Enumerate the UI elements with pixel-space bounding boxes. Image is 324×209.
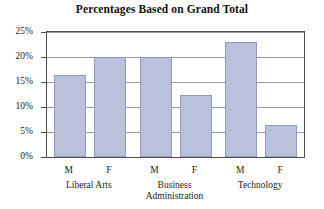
bar-liberal-arts-m bbox=[54, 75, 86, 158]
bar-business-administration-f bbox=[180, 95, 212, 158]
y-axis: 0%5%10%15%20%25% bbox=[0, 31, 40, 158]
x-group-label-line: Administration bbox=[146, 191, 204, 202]
y-tick-label-3: 15% bbox=[16, 77, 33, 87]
bar-liberal-arts-f bbox=[94, 57, 126, 157]
bar-technology-m bbox=[225, 42, 257, 157]
x-sub-label-3: F bbox=[192, 165, 197, 175]
chart-title: Percentages Based on Grand Total bbox=[0, 3, 324, 15]
x-group-label-line: Technology bbox=[238, 180, 283, 191]
gridline bbox=[47, 57, 304, 58]
y-tick-label-1: 5% bbox=[20, 127, 33, 137]
x-group-label-1: BusinessAdministration bbox=[146, 180, 204, 202]
x-sub-label-1: F bbox=[106, 165, 111, 175]
y-tick-label-0: 0% bbox=[20, 152, 33, 162]
x-sub-label-2: M bbox=[150, 165, 158, 175]
x-group-label-line: Business bbox=[146, 180, 204, 191]
y-tick-label-4: 20% bbox=[16, 52, 33, 62]
bar-business-administration-m bbox=[140, 57, 172, 157]
plot-area bbox=[47, 32, 304, 157]
x-group-label-line: Liberal Arts bbox=[66, 180, 112, 191]
x-sub-label-4: M bbox=[236, 165, 244, 175]
x-sub-label-0: M bbox=[65, 165, 73, 175]
x-axis: MFMFMFLiberal ArtsBusinessAdministration… bbox=[46, 159, 305, 209]
x-sub-label-5: F bbox=[278, 165, 283, 175]
bar-chart-figure: Percentages Based on Grand Total 0%5%10%… bbox=[0, 0, 324, 209]
plot-frame bbox=[46, 31, 305, 158]
y-tick-label-5: 25% bbox=[16, 27, 33, 37]
x-group-label-2: Technology bbox=[238, 180, 283, 191]
y-tick-label-2: 10% bbox=[16, 102, 33, 112]
x-group-label-0: Liberal Arts bbox=[66, 180, 112, 191]
gridline bbox=[47, 32, 304, 33]
bar-technology-f bbox=[265, 125, 297, 158]
